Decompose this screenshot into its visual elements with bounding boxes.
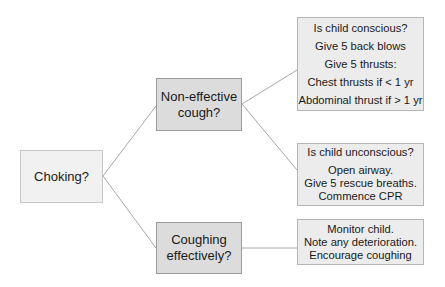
outcome-line: Open airway.	[328, 164, 393, 177]
branch-label-line: Non-effective	[161, 89, 237, 105]
branch-label-line: cough?	[178, 105, 221, 121]
root-node-choking: Choking?	[20, 150, 103, 203]
outcome-line: Monitor child.	[327, 223, 394, 236]
outcome-line: Give 5 back blows	[315, 37, 406, 55]
branch-node-coughing-effectively: Coughing effectively?	[156, 222, 242, 274]
branch-label-line: effectively?	[167, 248, 232, 264]
branch-label-line: Coughing	[171, 232, 227, 248]
outcome-line: Give 5 rescue breaths.	[304, 177, 417, 190]
outcome-line: Note any deterioration.	[304, 236, 417, 249]
outcome-line: Is child conscious?	[314, 19, 408, 37]
root-label: Choking?	[34, 169, 89, 185]
outcome-line: Give 5 thrusts:	[324, 55, 396, 73]
outcome-line: Chest thrusts if < 1 yr	[307, 73, 413, 91]
outcome-line: Encourage coughing	[309, 249, 412, 262]
branch-node-non-effective-cough: Non-effective cough?	[156, 78, 242, 131]
outcome-node-conscious: Is child conscious? Give 5 back blows Gi…	[297, 17, 424, 111]
outcome-node-unconscious: Is child unconscious? Open airway. Give …	[297, 143, 424, 206]
outcome-line: Is child unconscious?	[307, 146, 413, 159]
outcome-node-monitor: Monitor child. Note any deterioration. E…	[297, 219, 424, 265]
outcome-line: Commence CPR	[319, 190, 403, 203]
outcome-line: Abdominal thrust if > 1 yr	[298, 91, 422, 109]
